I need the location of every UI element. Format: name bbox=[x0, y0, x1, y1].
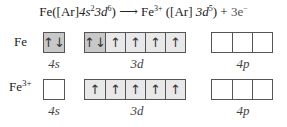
label-4s: 4s bbox=[43, 103, 65, 119]
orbital-box: ↑ bbox=[165, 80, 185, 99]
orbital-box: ↑ bbox=[105, 33, 125, 52]
plus-sign: + bbox=[220, 4, 227, 19]
orbital-box: ↑↓ bbox=[85, 33, 105, 52]
orbital-box: ↑↓ bbox=[44, 33, 64, 52]
reactant-config-open: ([Ar] bbox=[52, 4, 79, 19]
reaction-arrow: ⟶ bbox=[119, 4, 138, 19]
product-charge: 3+ bbox=[154, 4, 163, 13]
label-4s: 4s bbox=[43, 56, 65, 72]
species-charge: 3+ bbox=[22, 78, 32, 88]
orbital-box bbox=[232, 33, 252, 52]
label-4p: 4p bbox=[211, 103, 275, 119]
orbital-box: ↑ bbox=[85, 80, 105, 99]
species-symbol: Fe bbox=[9, 79, 22, 94]
species-symbol: Fe bbox=[14, 34, 27, 49]
label-4p: 4p bbox=[211, 56, 275, 72]
product-symbol: Fe bbox=[141, 4, 154, 19]
fe3plus-4s-orbital bbox=[43, 79, 65, 100]
electron-charge: − bbox=[243, 4, 248, 13]
orbital-box: ↑ bbox=[125, 33, 145, 52]
electrons: 3e bbox=[231, 4, 243, 19]
fe-4p-orbitals bbox=[211, 32, 273, 53]
orbital-box bbox=[212, 80, 232, 99]
orbital-box: ↑ bbox=[125, 80, 145, 99]
species-fe3plus: Fe3+ bbox=[9, 78, 32, 95]
orbital-box: ↑ bbox=[145, 80, 165, 99]
fe-3d-orbitals: ↑↓ ↑ ↑ ↑ ↑ bbox=[84, 32, 186, 53]
label-3d: 3d bbox=[84, 103, 190, 119]
orbital-box bbox=[252, 80, 272, 99]
reactant-symbol: Fe bbox=[39, 4, 52, 19]
species-fe: Fe bbox=[14, 34, 27, 50]
orbital-box: ↑ bbox=[105, 80, 125, 99]
fe-4s-orbital: ↑↓ bbox=[43, 32, 65, 53]
orbital-box: ↑ bbox=[165, 33, 185, 52]
reactant-config-close: ) bbox=[112, 4, 116, 19]
product-3d: 3d bbox=[196, 4, 209, 19]
orbital-box: ↑ bbox=[145, 33, 165, 52]
orbital-box bbox=[44, 80, 64, 99]
product-config-close: ) bbox=[213, 4, 217, 19]
reactant-3d: 3d bbox=[95, 4, 108, 19]
fe3plus-4p-orbitals bbox=[211, 79, 273, 100]
orbital-box bbox=[232, 80, 252, 99]
ionization-equation: Fe([Ar]4s23d6) ⟶ Fe3+ ([Ar] 3d5) + 3e− bbox=[0, 4, 287, 20]
reactant-4s: 4s bbox=[79, 4, 91, 19]
orbital-box bbox=[252, 33, 272, 52]
product-config-open: ([Ar] bbox=[166, 4, 196, 19]
label-3d: 3d bbox=[84, 56, 190, 72]
orbital-box bbox=[212, 33, 232, 52]
fe3plus-3d-orbitals: ↑ ↑ ↑ ↑ ↑ bbox=[84, 79, 186, 100]
